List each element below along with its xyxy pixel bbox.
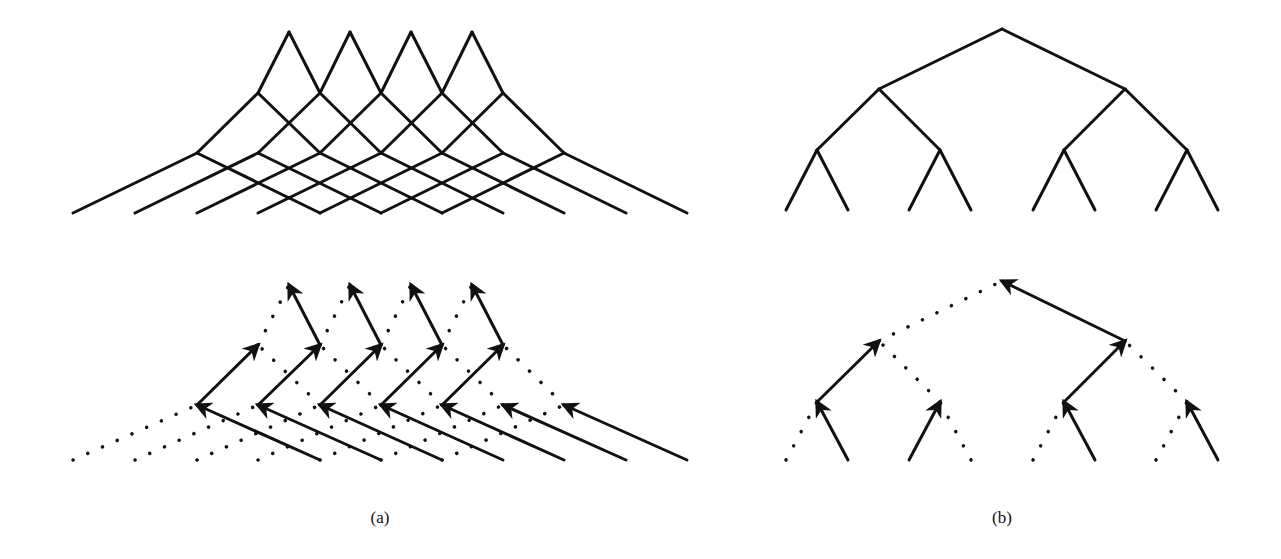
arrow-edge [1064,402,1095,460]
caption-b: (b) [992,508,1012,528]
tree-edge [442,32,472,93]
arrow-edge [503,405,626,460]
dotted-edge [879,341,940,402]
tree-edge [1033,150,1064,210]
arrow-edge [320,345,381,405]
tree-edge [503,153,626,213]
tree-edge [135,153,258,213]
binary-tree-b [786,29,1218,210]
tree-edge [73,153,197,213]
arrow-edge [564,405,687,460]
dotted-edge [503,345,564,405]
pointer-forest-a [73,285,687,460]
tree-edge [817,89,879,150]
dotted-edge [1125,341,1187,402]
pointer-forest-b [786,281,1218,460]
dotted-edge [320,285,350,345]
tree-edge [472,32,503,93]
dotted-edge [381,285,411,345]
tree-edge [1064,150,1095,210]
arrow-edge [472,285,503,345]
arrow-edge [197,345,258,405]
tree-edge [320,32,350,93]
tree-edge [940,150,971,210]
tree-edge [258,32,289,93]
arrow-edge [817,402,848,460]
tree-edge [564,153,687,213]
arrow-edge [1002,281,1125,341]
tree-edge [786,150,817,210]
tree-edge [909,150,940,210]
tree-edge [817,150,848,210]
arrow-edge [1187,402,1218,460]
dotted-edge [786,402,817,460]
tree-edge [381,32,411,93]
arrow-edge [442,345,503,405]
tree-edge [879,29,1002,89]
dotted-edge [879,281,1002,341]
arrow-edge [909,402,940,460]
dotted-edge [940,402,971,460]
tree-edge [197,93,258,153]
arrow-edge [1064,341,1125,402]
tree-edge [1064,89,1125,150]
tree-edge [411,32,442,93]
lattice-diagram-a [73,32,687,213]
tree-edge [879,89,940,150]
tree-edge [1156,150,1187,210]
arrow-edge [350,285,381,345]
arrow-edge [289,285,320,345]
dotted-edge [135,405,258,460]
tree-edge [289,32,320,93]
tree-edge [1187,150,1218,210]
diagram-canvas [0,0,1281,559]
tree-edge [1125,89,1187,150]
arrow-edge [817,341,879,402]
dotted-edge [73,405,197,460]
arrow-edge [381,345,442,405]
arrow-edge [411,285,442,345]
tree-edge [1002,29,1125,89]
caption-a: (a) [371,508,390,528]
dotted-edge [258,285,289,345]
dotted-edge [1033,402,1064,460]
dotted-edge [1156,402,1187,460]
dotted-edge [442,285,472,345]
tree-edge [503,93,564,153]
arrow-edge [258,345,320,405]
tree-edge [350,32,381,93]
